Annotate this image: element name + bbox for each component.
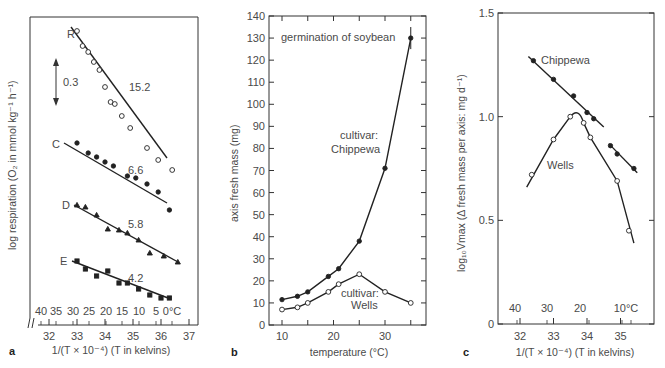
x-tick-label: 34 xyxy=(581,330,593,342)
open-circle-marker xyxy=(336,282,341,287)
filled-circle-marker xyxy=(571,94,575,98)
y-tick-label: 60 xyxy=(253,187,265,199)
series-c xyxy=(64,141,172,212)
filled-triangle-marker xyxy=(83,204,88,209)
series-wells xyxy=(527,113,634,243)
celsius-tick-label: 40 xyxy=(35,305,47,317)
celsius-tick-label: 5 xyxy=(153,305,159,317)
open-circle-marker xyxy=(86,50,91,55)
panel-letter-b: b xyxy=(231,346,238,358)
filled-circle-marker xyxy=(103,160,107,164)
x-tick-label: 35 xyxy=(127,330,139,342)
open-circle-marker xyxy=(529,172,534,177)
filled-circle-marker xyxy=(295,294,299,298)
celsius-tick-label: 0°C xyxy=(163,305,182,317)
x-tick-label: 32 xyxy=(514,330,526,342)
y-tick-label: 50 xyxy=(253,209,265,221)
filled-circle-marker xyxy=(551,77,555,81)
slope-label-r: 15.2 xyxy=(129,81,150,93)
panel-c-series xyxy=(527,57,638,244)
open-circle-marker xyxy=(326,289,331,294)
y-tick-label: 80 xyxy=(253,142,265,154)
filled-square-marker xyxy=(83,267,87,271)
slope-label-d: 5.8 xyxy=(128,218,143,230)
series-e xyxy=(72,259,172,300)
series-label-r: R xyxy=(67,28,75,40)
series-chippewa xyxy=(280,36,413,302)
filled-circle-marker xyxy=(156,190,160,194)
open-circle-marker xyxy=(568,114,573,119)
open-circle-marker xyxy=(581,120,586,125)
wells-label-line1: cultivar: xyxy=(341,287,379,299)
y-tick-label: 30 xyxy=(253,253,265,265)
y-tick-label: 130 xyxy=(247,32,265,44)
y-tick-label: 90 xyxy=(253,120,265,132)
series-label-e: E xyxy=(60,255,67,267)
celsius-tick-label: 30 xyxy=(67,305,79,317)
x-tick-label: 33 xyxy=(547,330,559,342)
x-tick-label: 37 xyxy=(183,330,195,342)
open-circle-marker xyxy=(280,307,285,312)
chippewa-label: Chippewa xyxy=(541,54,591,66)
celsius-tick-label: 15 xyxy=(116,305,128,317)
panel-a: 323334353637 0.3 R 15.2 C 6.6 D 5.8 E 4.… xyxy=(6,17,198,357)
panel-letter-c: c xyxy=(463,346,469,358)
filled-square-marker xyxy=(167,296,171,300)
axis-break-icon xyxy=(28,318,34,328)
x-tick-label: 10 xyxy=(276,330,288,342)
y-tick-label: 0 xyxy=(488,318,494,330)
filled-circle-marker xyxy=(145,182,149,186)
filled-circle-marker xyxy=(94,155,98,159)
panel-c-x-ticks: 32333435 xyxy=(514,318,627,342)
filled-triangle-marker xyxy=(74,202,79,207)
filled-circle-marker xyxy=(306,290,310,294)
celsius-tick-label: 10 xyxy=(133,305,145,317)
series-label-d: D xyxy=(62,199,70,211)
filled-circle-marker xyxy=(111,164,115,168)
filled-circle-marker xyxy=(585,110,589,114)
filled-triangle-marker xyxy=(175,259,180,264)
open-circle-marker xyxy=(551,137,556,142)
series-label-c: C xyxy=(52,138,60,150)
filled-triangle-marker xyxy=(105,226,110,231)
panel-b-y-label: axis fresh mass (mg) xyxy=(228,125,240,222)
open-circle-marker xyxy=(170,168,175,173)
celsius-tick-label: 40 xyxy=(509,302,521,314)
panel-a-celsius-ticks: 4035302520151050°C xyxy=(35,305,181,325)
panel-c-y-label: log₁₀Vmax (Δ fresh mass per axis: mg d⁻¹… xyxy=(455,74,467,272)
filled-circle-marker xyxy=(75,141,79,145)
filled-circle-marker xyxy=(336,267,340,271)
chippewa-label-line1: cultivar: xyxy=(340,129,378,141)
y-tick-label: 110 xyxy=(247,76,265,88)
open-circle-marker xyxy=(80,44,85,49)
panel-b-title: germination of soybean xyxy=(281,31,395,43)
open-circle-marker xyxy=(119,114,124,119)
x-tick-label: 36 xyxy=(155,330,167,342)
panel-b-frame xyxy=(269,16,426,325)
filled-square-marker xyxy=(106,269,110,273)
scale-bar: 0.3 xyxy=(53,58,78,106)
y-tick-label: 0 xyxy=(259,319,265,331)
filled-square-marker xyxy=(117,281,121,285)
open-circle-marker xyxy=(408,301,413,306)
panel-a-y-label: log respiration (O₂ in mmol kg⁻¹ h⁻¹) xyxy=(6,80,18,250)
y-tick-label: 70 xyxy=(253,165,265,177)
open-circle-marker xyxy=(357,272,362,277)
y-tick-label: 10 xyxy=(253,297,265,309)
celsius-tick-label: 25 xyxy=(83,305,95,317)
x-tick-label: 30 xyxy=(379,330,391,342)
open-circle-marker xyxy=(295,305,300,310)
celsius-tick-label: 20 xyxy=(574,302,586,314)
filled-square-marker xyxy=(75,259,79,263)
panel-b-x-label: temperature (°C) xyxy=(310,346,388,358)
y-tick-label: 40 xyxy=(253,231,265,243)
celsius-tick-label: 10°C xyxy=(614,302,639,314)
series-r xyxy=(71,27,175,172)
y-tick-label: 20 xyxy=(253,275,265,287)
celsius-tick-label: 30 xyxy=(541,302,553,314)
series-d xyxy=(74,202,180,264)
open-circle-marker xyxy=(156,158,161,163)
panel-a-x-label: 1/(T × 10⁻⁴) (T in kelvins) xyxy=(52,344,170,356)
x-tick-label: 34 xyxy=(99,330,111,342)
wells-label-line2: Wells xyxy=(351,299,378,311)
